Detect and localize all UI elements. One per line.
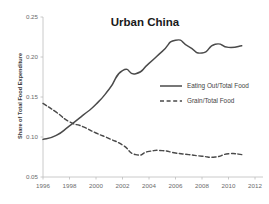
y-tick-label: 0.15 <box>26 93 39 100</box>
y-axis-title-group: Share of Total Food Expenditure <box>17 53 23 139</box>
urban-china-line-chart: Urban China Share of Total Food Expendit… <box>0 0 269 204</box>
y-tick-label: 0.10 <box>26 133 39 140</box>
series-line-2 <box>43 103 242 157</box>
x-tick-label: 1998 <box>63 182 77 189</box>
x-tick-label: 2002 <box>116 182 130 189</box>
x-axis-tick-labels: 199619982000200220042006200820102012 <box>36 182 262 189</box>
chart-legend: Eating Out/Total FoodGrain/Total Food <box>160 82 249 104</box>
x-tick-label: 2010 <box>222 182 236 189</box>
chart-title-group: Urban China <box>111 16 180 28</box>
y-tick-label: 0.20 <box>26 53 39 60</box>
y-tick-label: 0.05 <box>26 173 39 180</box>
x-tick-label: 2012 <box>248 182 262 189</box>
y-axis-title: Share of Total Food Expenditure <box>17 53 23 139</box>
x-tick-label: 2006 <box>169 182 183 189</box>
chart-title: Urban China <box>111 16 180 28</box>
x-tick-label: 2004 <box>142 182 156 189</box>
x-tick-label: 2008 <box>195 182 209 189</box>
y-axis-tick-labels: 0.050.100.150.200.25 <box>26 13 39 180</box>
y-tick-label: 0.25 <box>26 13 39 20</box>
x-tick-label: 1996 <box>36 182 50 189</box>
x-tick-label: 2000 <box>89 182 103 189</box>
legend-label-2: Grain/Total Food <box>187 97 235 104</box>
chart-container: Urban China Share of Total Food Expendit… <box>0 0 269 204</box>
series-line-1 <box>43 40 242 140</box>
legend-label-1: Eating Out/Total Food <box>187 82 249 90</box>
